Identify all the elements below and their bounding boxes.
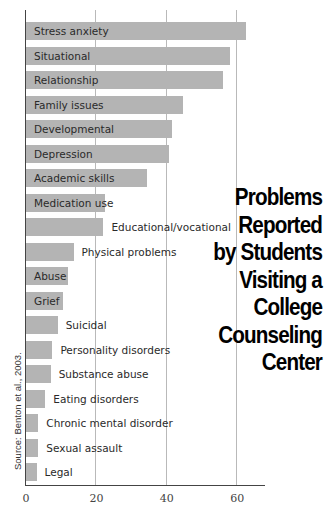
bar-label: Suicidal bbox=[66, 316, 107, 334]
x-tick-label: 40 bbox=[160, 492, 174, 505]
bar-label: Physical problems bbox=[82, 243, 177, 261]
bar-chart: Stress anxietySituationalRelationshipFam… bbox=[0, 0, 327, 515]
bar bbox=[26, 243, 74, 261]
chart-title: ProblemsReportedby StudentsVisiting aCol… bbox=[193, 183, 322, 376]
title-line: Counseling bbox=[193, 321, 322, 349]
bar bbox=[26, 316, 58, 334]
y-axis-line bbox=[25, 10, 26, 486]
bar-label: Eating disorders bbox=[53, 390, 138, 408]
bar-label: Situational bbox=[34, 47, 90, 65]
bar bbox=[26, 414, 38, 432]
bar-label: Academic skills bbox=[34, 169, 114, 187]
bar bbox=[26, 365, 51, 383]
x-tick-label: 0 bbox=[23, 492, 30, 505]
title-line: Center bbox=[193, 348, 322, 376]
title-line: Problems bbox=[193, 183, 322, 211]
bar bbox=[26, 390, 45, 408]
bar-label: Family issues bbox=[34, 96, 104, 114]
bar bbox=[26, 463, 37, 481]
bar-label: Chronic mental disorder bbox=[46, 414, 172, 432]
title-line: College bbox=[193, 293, 322, 321]
x-tick-label: 60 bbox=[230, 492, 244, 505]
bar-label: Grief bbox=[34, 292, 60, 310]
source-note: Source: Benton et al., 2003. bbox=[12, 352, 23, 470]
bar-label: Stress anxiety bbox=[34, 22, 109, 40]
x-tick-label: 20 bbox=[89, 492, 103, 505]
bar-label: Developmental bbox=[34, 120, 114, 138]
bar-label: Abuse bbox=[34, 267, 66, 285]
bar bbox=[26, 341, 52, 359]
title-line: Reported bbox=[193, 211, 322, 239]
bar bbox=[26, 439, 38, 457]
bar-label: Sexual assault bbox=[46, 439, 122, 457]
x-axis-line bbox=[25, 485, 265, 486]
bar-label: Personality disorders bbox=[60, 341, 170, 359]
bar-label: Relationship bbox=[34, 71, 98, 89]
bar-label: Substance abuse bbox=[59, 365, 149, 383]
title-line: Visiting a bbox=[193, 266, 322, 294]
bar bbox=[26, 218, 103, 236]
bar-label: Depression bbox=[34, 145, 93, 163]
title-line: by Students bbox=[193, 238, 322, 266]
bar-label: Legal bbox=[45, 463, 73, 481]
bar-label: Medication use bbox=[34, 194, 113, 212]
